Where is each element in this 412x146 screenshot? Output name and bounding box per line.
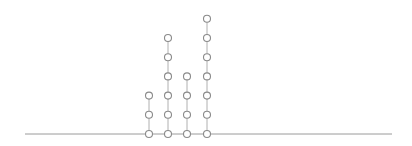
- data-dot: [204, 35, 211, 42]
- data-dot: [204, 15, 211, 22]
- data-dot: [204, 54, 211, 61]
- data-dot: [184, 73, 191, 80]
- data-dot: [146, 92, 153, 99]
- data-dot: [165, 54, 172, 61]
- data-dot: [204, 131, 211, 138]
- data-dot: [184, 111, 191, 118]
- data-dot: [165, 111, 172, 118]
- data-dot: [146, 131, 153, 138]
- data-dot: [204, 111, 211, 118]
- data-dot: [184, 131, 191, 138]
- dot-plot-chart: [0, 0, 412, 146]
- data-dot: [165, 92, 172, 99]
- data-dot: [204, 92, 211, 99]
- data-dot: [184, 92, 191, 99]
- data-dot: [165, 73, 172, 80]
- dot-column-4: [204, 15, 211, 137]
- data-dot: [146, 111, 153, 118]
- dot-column-2: [165, 35, 172, 138]
- dot-column-1: [146, 92, 153, 137]
- data-dot: [165, 35, 172, 42]
- data-dot: [204, 73, 211, 80]
- dot-column-3: [184, 73, 191, 138]
- dot-columns: [146, 15, 211, 137]
- data-dot: [165, 131, 172, 138]
